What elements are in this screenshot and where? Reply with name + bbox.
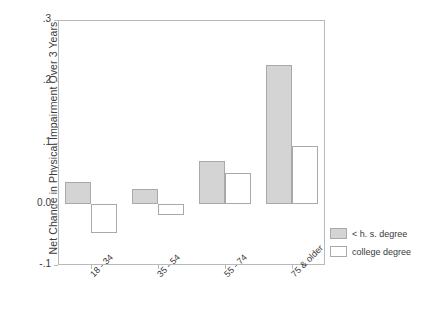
legend-item-1: college degree	[330, 246, 422, 257]
y-tick-label: .1	[43, 136, 51, 147]
y-tick-4: -.1	[0, 265, 58, 266]
y-tick-label: 0.0	[37, 197, 51, 208]
bar-1-0	[132, 189, 158, 204]
legend-item-0: < h. s. degree	[330, 228, 422, 239]
y-tick-label: .3	[43, 13, 51, 24]
bar-chart-figure: Net Change in Physical Impairment Over 3…	[0, 0, 423, 327]
legend-swatch-1	[330, 246, 347, 257]
bar-3-1	[292, 146, 318, 204]
y-tick-mark	[54, 265, 58, 266]
y-tick-0: .3	[0, 20, 58, 21]
y-tick-2: .1	[0, 143, 58, 144]
bar-2-0	[199, 161, 225, 203]
bar-2-1	[225, 173, 251, 204]
legend-swatch-0	[330, 228, 347, 239]
chart-legend: < h. s. degreecollege degree	[330, 228, 422, 264]
legend-label-1: college degree	[352, 247, 411, 257]
y-tick-3: 0.0	[0, 204, 58, 205]
y-axis-ticks: .3.2.10.0-.1	[0, 0, 58, 327]
bar-3-0	[266, 65, 292, 204]
bar-1-1	[158, 204, 184, 216]
bar-0-0	[65, 182, 91, 203]
bar-0-1	[91, 204, 117, 233]
y-tick-label: .2	[43, 74, 51, 85]
legend-label-0: < h. s. degree	[352, 229, 407, 239]
plot-area	[58, 20, 325, 265]
y-tick-1: .2	[0, 81, 58, 82]
y-tick-label: -.1	[39, 258, 51, 269]
